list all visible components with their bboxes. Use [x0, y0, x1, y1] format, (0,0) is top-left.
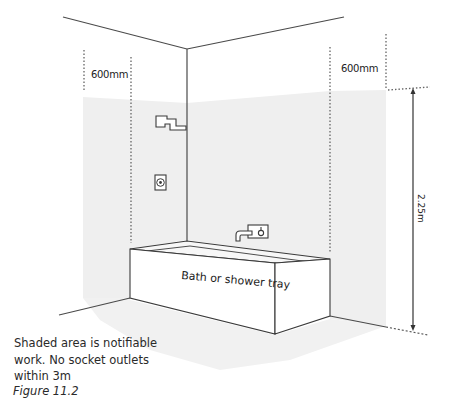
height-dimension-label: 2.25m	[416, 194, 426, 223]
height-dimension-arrow	[411, 88, 416, 331]
right-zone-width-label: 600mm	[341, 63, 378, 74]
ceiling-lines	[63, 17, 344, 49]
shower-control-icon	[155, 175, 166, 190]
notifiable-work-note: Shaded area is notifiable work. No socke…	[14, 335, 164, 385]
shaded-zone	[83, 90, 386, 370]
floor-extension-dotted	[386, 327, 428, 335]
figure-caption: Figure 11.2	[13, 384, 78, 398]
left-zone-width-label: 600mm	[91, 69, 128, 80]
